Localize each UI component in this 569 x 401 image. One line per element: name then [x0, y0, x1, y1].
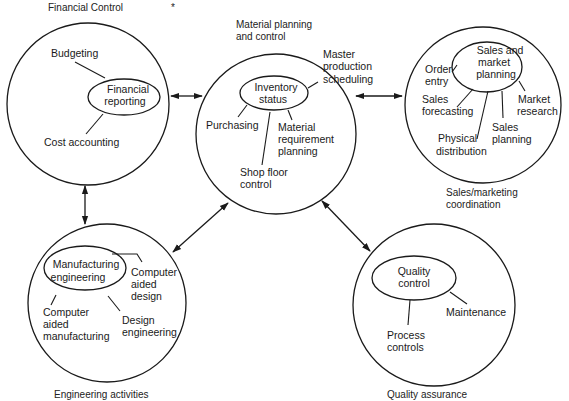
item-label: research — [517, 105, 558, 117]
item-label: Maintenance — [446, 306, 506, 318]
node-title: Sales/marketing — [446, 187, 518, 198]
item-label: Market — [518, 93, 550, 105]
item-label: manufacturing — [43, 330, 110, 342]
item-label: scheduling — [323, 73, 373, 85]
node-title: coordination — [446, 199, 500, 210]
hub-label: engineering — [51, 271, 106, 283]
item-label: Sales — [492, 121, 518, 133]
hub-label: status — [259, 93, 287, 105]
hub-label: market — [478, 56, 510, 68]
arrow-material-quality — [322, 201, 370, 251]
item-label: planning — [492, 133, 532, 145]
hub-label: reporting — [104, 95, 146, 107]
item-label: Computer — [43, 306, 90, 318]
item-label: controls — [387, 341, 424, 353]
arrow-material-engineering — [173, 203, 228, 252]
item-label: aided — [131, 278, 157, 290]
node-material-planning: Material planning and control Inventory … — [196, 19, 373, 214]
item-label: Shop floor — [240, 166, 288, 178]
item-label: Process — [387, 329, 425, 341]
node-title: Engineering activities — [54, 389, 149, 400]
node-quality-assurance: Quality control Maintenance Process cont… — [353, 224, 515, 400]
item-label: control — [240, 178, 272, 190]
item-label: forecasting — [422, 105, 474, 117]
item-label: Budgeting — [51, 47, 98, 59]
node-engineering: Manufacturing engineering Computer aided… — [28, 224, 186, 400]
node-financial-control: Financial Control Financial reporting Bu… — [7, 2, 169, 185]
node-title: Material planning — [236, 19, 312, 30]
integration-diagram: * Financial Control Financial reporting … — [0, 0, 569, 401]
item-label: Order — [425, 63, 452, 75]
hub-label: Inventory — [254, 81, 298, 93]
item-label: Purchasing — [206, 119, 259, 131]
item-label: planning — [278, 145, 318, 157]
item-label: engineering — [122, 326, 177, 338]
hub-label: Sales and — [477, 44, 524, 56]
item-label: Master — [323, 48, 356, 60]
stray-mark: * — [171, 2, 175, 13]
node-sales-marketing: Sales and market planning Order entry Sa… — [405, 27, 561, 210]
item-label: distribution — [436, 145, 487, 157]
item-label: requirement — [278, 133, 334, 145]
item-label: Cost accounting — [44, 136, 119, 148]
item-label: aided — [43, 318, 69, 330]
item-label: entry — [425, 75, 449, 87]
item-label: Design — [122, 314, 155, 326]
item-label: Physical — [438, 132, 477, 144]
hub-label: Quality — [398, 265, 431, 277]
node-title: and control — [236, 31, 285, 42]
hub-label: Manufacturing — [53, 258, 120, 270]
hub-label: Financial — [107, 83, 149, 95]
item-label: production — [323, 60, 372, 72]
item-label: design — [131, 290, 162, 302]
item-label: Material — [278, 121, 315, 133]
node-title: Quality assurance — [387, 389, 467, 400]
hub-label: planning — [476, 68, 516, 80]
hub-label: control — [398, 277, 430, 289]
node-circle — [353, 224, 515, 386]
item-label: Computer — [131, 266, 178, 278]
node-title: Financial Control — [48, 2, 123, 13]
item-label: Sales — [422, 93, 448, 105]
